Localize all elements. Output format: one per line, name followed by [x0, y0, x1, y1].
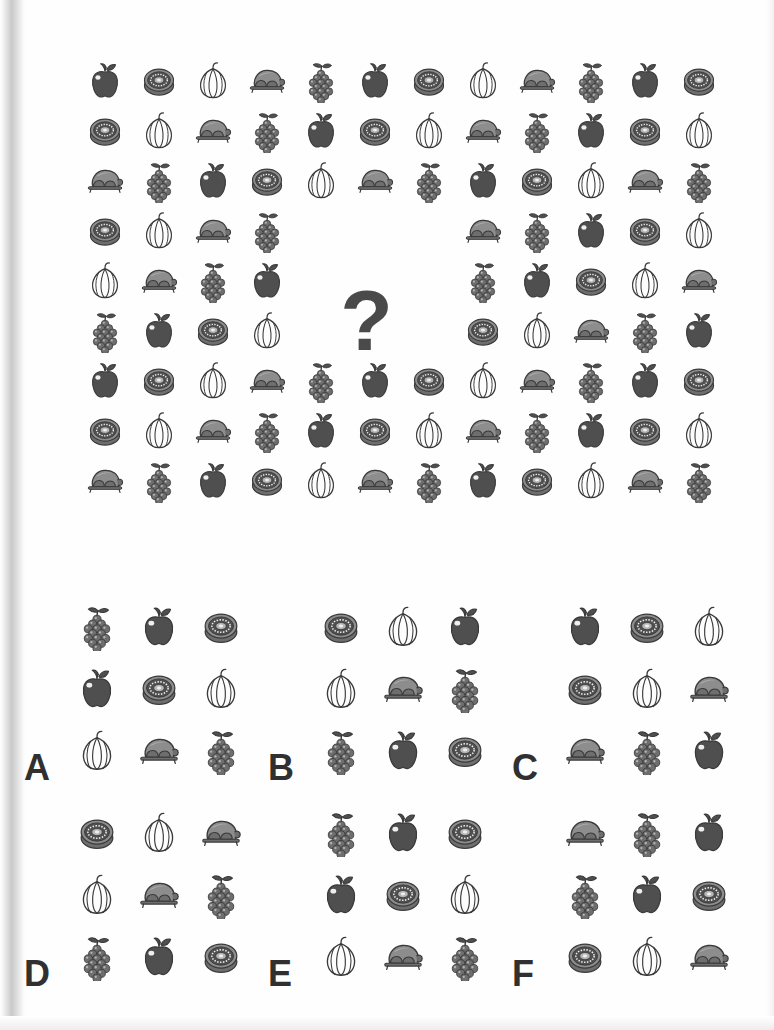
option-cell-kiwi: [434, 802, 496, 864]
option-cell-garlic: [678, 596, 740, 658]
answer-option-f[interactable]: F: [506, 798, 756, 998]
matrix-cell-kiwi: [406, 58, 452, 104]
matrix-cell-apple: [298, 408, 344, 454]
matrix-cell-kiwi: [406, 358, 452, 404]
matrix-cell-kiwi: [514, 158, 560, 204]
missing-piece-question-mark: ?: [334, 272, 398, 368]
option-cell-grapes: [190, 720, 252, 782]
matrix-cell-kiwi: [82, 108, 128, 154]
answer-option-b[interactable]: B: [262, 592, 512, 792]
matrix-cell-kiwi: [352, 408, 398, 454]
matrix-cell-kiwi: [622, 208, 668, 254]
matrix-cell-grapes: [244, 408, 290, 454]
option-cell-garlic: [190, 658, 252, 720]
matrix-cell-kiwi: [136, 58, 182, 104]
matrix-cell-garlic: [460, 358, 506, 404]
answer-option-grid: [554, 596, 740, 782]
matrix-cell-apple: [676, 308, 722, 354]
matrix-cell-turkey: [568, 308, 614, 354]
answer-option-e[interactable]: E: [262, 798, 512, 998]
answer-option-c[interactable]: C: [506, 592, 756, 792]
matrix-cell-kiwi: [244, 158, 290, 204]
matrix-cell-turkey: [190, 208, 236, 254]
matrix-cell-turkey: [352, 458, 398, 504]
matrix-cell-grapes: [244, 108, 290, 154]
matrix-cell-apple: [568, 208, 614, 254]
option-cell-grapes: [66, 926, 128, 988]
answer-option-letter: F: [512, 956, 534, 992]
matrix-cell-apple: [568, 408, 614, 454]
matrix-cell-turkey: [136, 258, 182, 304]
answer-options: ABCDEF: [0, 592, 774, 1030]
option-cell-apple: [616, 864, 678, 926]
option-cell-apple: [372, 720, 434, 782]
matrix-cell-apple: [190, 158, 236, 204]
matrix-cell-grapes: [190, 258, 236, 304]
option-cell-garlic: [66, 720, 128, 782]
option-cell-turkey: [190, 802, 252, 864]
option-cell-kiwi: [678, 864, 740, 926]
option-cell-kiwi: [310, 596, 372, 658]
matrix-cell-turkey: [190, 108, 236, 154]
answer-option-d[interactable]: D: [18, 798, 268, 998]
answer-option-letter: E: [268, 956, 292, 992]
matrix-cell-garlic: [568, 158, 614, 204]
option-cell-garlic: [310, 658, 372, 720]
matrix-cell-garlic: [298, 458, 344, 504]
option-cell-kiwi: [554, 926, 616, 988]
matrix-cell-garlic: [676, 108, 722, 154]
answer-option-letter: D: [24, 956, 50, 992]
answer-option-letter: A: [24, 750, 50, 786]
matrix-cell-garlic: [136, 408, 182, 454]
matrix-cell-turkey: [460, 208, 506, 254]
answer-option-grid: [310, 596, 496, 782]
matrix-cell-turkey: [514, 58, 560, 104]
matrix-cell-apple: [514, 258, 560, 304]
option-cell-kiwi: [554, 658, 616, 720]
matrix-cell-kiwi: [460, 308, 506, 354]
answer-option-letter: B: [268, 750, 294, 786]
matrix-cell-grapes: [136, 458, 182, 504]
puzzle-page: ? ABCDEF: [0, 0, 774, 1030]
matrix-cell-turkey: [622, 458, 668, 504]
option-cell-turkey: [554, 802, 616, 864]
option-cell-grapes: [554, 864, 616, 926]
option-cell-turkey: [372, 658, 434, 720]
option-cell-turkey: [128, 864, 190, 926]
matrix-cell-turkey: [82, 458, 128, 504]
option-cell-apple: [434, 596, 496, 658]
answer-option-a[interactable]: A: [18, 592, 268, 792]
option-cell-grapes: [310, 802, 372, 864]
matrix-cell-kiwi: [244, 458, 290, 504]
option-cell-apple: [128, 596, 190, 658]
matrix-cell-kiwi: [676, 58, 722, 104]
matrix-cell-garlic: [298, 158, 344, 204]
matrix-cell-garlic: [136, 208, 182, 254]
matrix-cell-turkey: [676, 258, 722, 304]
answer-option-grid: [66, 596, 252, 782]
option-cell-kiwi: [616, 596, 678, 658]
option-cell-garlic: [128, 802, 190, 864]
matrix-cell-garlic: [568, 458, 614, 504]
option-cell-turkey: [678, 926, 740, 988]
matrix-cell-garlic: [136, 108, 182, 154]
matrix-cell-grapes: [460, 258, 506, 304]
option-cell-turkey: [554, 720, 616, 782]
option-cell-apple: [372, 802, 434, 864]
matrix-cell-kiwi: [676, 358, 722, 404]
matrix-cell-turkey: [514, 358, 560, 404]
matrix-cell-apple: [622, 358, 668, 404]
answer-option-grid: [310, 802, 496, 988]
matrix-cell-kiwi: [568, 258, 614, 304]
matrix-cell-turkey: [460, 108, 506, 154]
matrix-cell-garlic: [244, 308, 290, 354]
matrix-cell-garlic: [622, 258, 668, 304]
matrix-cell-kiwi: [352, 108, 398, 154]
option-cell-garlic: [434, 864, 496, 926]
option-cell-garlic: [616, 926, 678, 988]
matrix-cell-garlic: [460, 58, 506, 104]
matrix-cell-grapes: [514, 208, 560, 254]
matrix-cell-kiwi: [190, 308, 236, 354]
option-cell-kiwi: [66, 802, 128, 864]
option-cell-grapes: [310, 720, 372, 782]
